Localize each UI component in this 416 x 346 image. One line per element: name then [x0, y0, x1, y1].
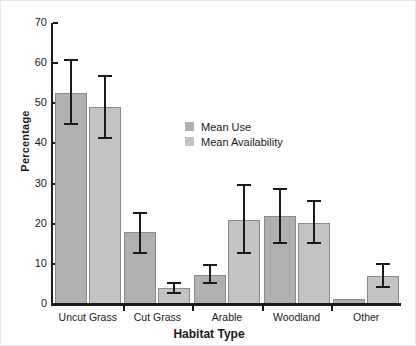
error-bar-cap-lower	[376, 286, 390, 288]
y-tick-label: 70	[13, 16, 47, 28]
legend-label-mean-availability: Mean Availability	[201, 136, 283, 148]
error-bar-cap-upper	[307, 200, 321, 202]
chart-legend: Mean Use Mean Availability	[185, 119, 283, 149]
error-bar-line	[243, 184, 245, 254]
error-bar-cap-upper	[98, 75, 112, 77]
y-tick-mark	[53, 62, 58, 64]
error-bar-cap-lower	[167, 292, 181, 294]
y-tick-label: 30	[13, 177, 47, 189]
bar-chart-figure: Percentage 010203040506070 Uncut GrassCu…	[0, 0, 416, 346]
error-bar-cap-upper	[167, 282, 181, 284]
error-bar-cap-upper	[376, 263, 390, 265]
error-bar-cap-lower	[237, 252, 251, 254]
y-tick-label: 60	[13, 56, 47, 68]
legend-swatch-mean-availability	[185, 137, 194, 146]
error-bar-line	[382, 263, 384, 288]
error-bar-line	[70, 59, 72, 125]
y-tick-label: 10	[13, 257, 47, 269]
error-bar-cap-lower	[273, 242, 287, 244]
y-tick-label: 40	[13, 136, 47, 148]
error-bar-cap-upper	[273, 188, 287, 190]
legend-item-mean-use: Mean Use	[185, 119, 283, 134]
error-bar-cap-lower	[98, 137, 112, 139]
error-bar-line	[313, 200, 315, 244]
error-bar-cap-lower	[307, 242, 321, 244]
error-bar-line	[139, 212, 141, 254]
error-bar-cap-lower	[133, 252, 147, 254]
y-tick-label: 0	[13, 297, 47, 309]
error-bar-cap-upper	[133, 212, 147, 214]
y-tick-mark	[53, 22, 58, 24]
error-bar-line	[104, 75, 106, 139]
legend-label-mean-use: Mean Use	[201, 121, 251, 133]
error-bar-line	[279, 188, 281, 244]
legend-item-mean-availability: Mean Availability	[185, 134, 283, 149]
x-axis-line	[51, 303, 401, 306]
error-bar-cap-lower	[64, 123, 78, 125]
error-bar-cap-upper	[237, 184, 251, 186]
y-tick-label: 50	[13, 96, 47, 108]
x-axis-title: Habitat Type	[1, 327, 416, 341]
y-tick-label: 20	[13, 217, 47, 229]
error-bar-cap-lower	[203, 282, 217, 284]
error-bar-cap-upper	[203, 264, 217, 266]
x-tick-label: Other	[316, 311, 416, 323]
error-bar-line	[209, 264, 211, 284]
legend-swatch-mean-use	[185, 122, 194, 131]
error-bar-cap-upper	[64, 59, 78, 61]
